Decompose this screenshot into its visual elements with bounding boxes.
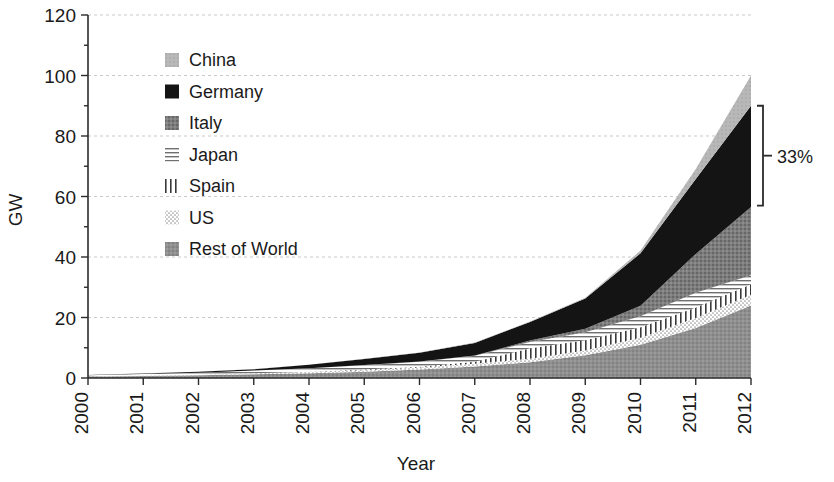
x-tick-label: 2010 — [624, 392, 645, 434]
y-tick-label: 120 — [44, 5, 76, 26]
legend-label-rest-of-world: Rest of World — [189, 239, 298, 259]
x-tick-label: 2002 — [182, 392, 203, 434]
china-swatch — [165, 53, 179, 67]
legend-label-germany: Germany — [189, 82, 263, 102]
area-layers — [88, 76, 751, 379]
x-axis: 2000200120022003200420052006200720082009… — [71, 378, 755, 434]
bracket-outline — [757, 106, 763, 206]
chart-container: 020406080100120 200020012002200320042005… — [0, 0, 834, 482]
x-tick-label: 2000 — [71, 392, 92, 434]
y-axis: 020406080100120 — [44, 5, 88, 389]
y-tick-label: 80 — [55, 126, 76, 147]
stacked-area-chart: 020406080100120 200020012002200320042005… — [0, 0, 834, 482]
y-tick-label: 100 — [44, 66, 76, 87]
x-tick-label: 2007 — [458, 392, 479, 434]
us-swatch — [165, 211, 179, 225]
italy-swatch — [165, 116, 179, 130]
y-axis-title: GW — [5, 194, 26, 227]
x-tick-label: 2001 — [126, 392, 147, 434]
x-tick-label: 2008 — [513, 392, 534, 434]
x-tick-label: 2011 — [679, 392, 700, 433]
legend-label-japan: Japan — [189, 145, 238, 165]
x-tick-label: 2005 — [347, 392, 368, 434]
japan-swatch — [165, 148, 179, 162]
spain-swatch — [165, 179, 179, 193]
y-tick-label: 20 — [55, 308, 76, 329]
x-tick-label: 2006 — [403, 392, 424, 434]
y-tick-label: 60 — [55, 187, 76, 208]
legend-label-italy: Italy — [189, 113, 222, 133]
x-tick-label: 2009 — [568, 392, 589, 434]
rest-of-world-swatch — [165, 242, 179, 256]
annotation-33-percent: 33% — [777, 147, 813, 167]
annotation-bracket: 33% — [757, 106, 813, 206]
legend-label-spain: Spain — [189, 176, 235, 196]
y-tick-label: 0 — [65, 368, 76, 389]
x-axis-title: Year — [397, 453, 436, 474]
germany-swatch — [165, 85, 179, 99]
x-tick-label: 2003 — [237, 392, 258, 434]
x-tick-label: 2004 — [292, 392, 313, 435]
y-tick-label: 40 — [55, 247, 76, 268]
legend-label-china: China — [189, 50, 237, 70]
x-tick-label: 2012 — [734, 392, 755, 434]
legend-label-us: US — [189, 208, 214, 228]
legend: ChinaGermanyItalyJapanSpainUSRest of Wor… — [165, 50, 298, 259]
